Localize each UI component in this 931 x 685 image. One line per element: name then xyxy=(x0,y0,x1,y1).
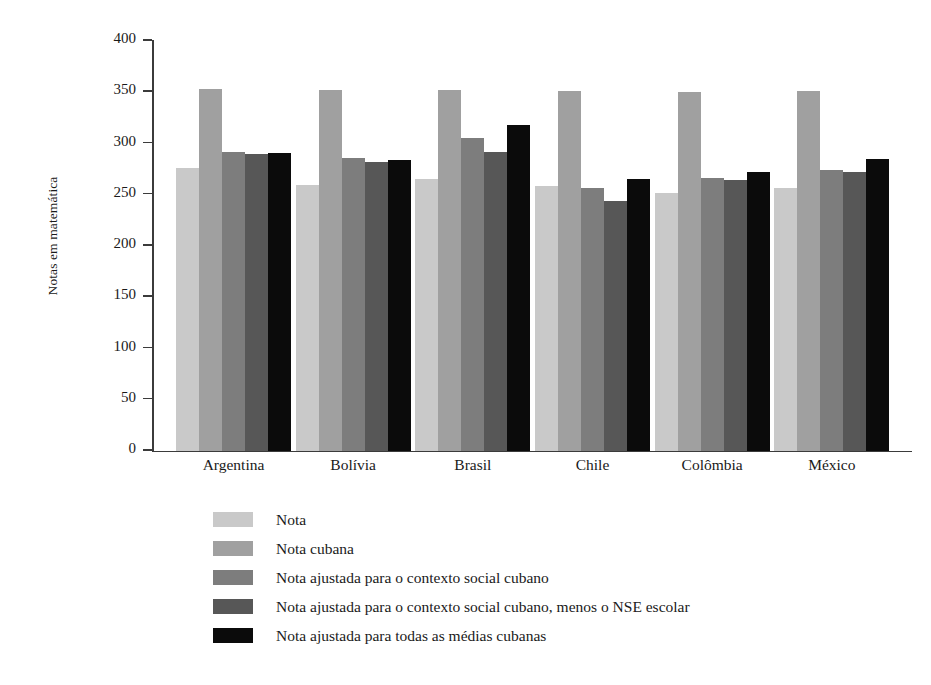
bar xyxy=(484,152,507,450)
y-axis-tick: 350 xyxy=(143,90,152,92)
y-axis-tick-label: 250 xyxy=(114,183,137,202)
bar xyxy=(415,179,438,451)
y-axis-tick-label: 150 xyxy=(114,285,137,304)
bar-group: Chile xyxy=(535,41,650,451)
y-axis-tick: 300 xyxy=(143,142,152,144)
legend-item: Nota ajustada para o contexto social cub… xyxy=(213,563,690,592)
legend-label: Nota ajustada para o contexto social cub… xyxy=(276,597,690,616)
y-axis-tick-label: 300 xyxy=(114,132,137,151)
bar xyxy=(461,138,484,451)
y-axis-tick: 50 xyxy=(143,398,152,400)
bar xyxy=(365,162,388,450)
y-axis-tick: 150 xyxy=(143,295,152,297)
bar xyxy=(604,201,627,450)
x-axis-category-label: México xyxy=(774,455,889,475)
legend-item: Nota ajustada para o contexto social cub… xyxy=(213,592,690,621)
bar xyxy=(438,90,461,451)
bar-group: Bolívia xyxy=(296,41,411,451)
legend-swatch-icon xyxy=(213,599,253,614)
bar xyxy=(558,91,581,451)
x-axis-category-label: Argentina xyxy=(176,455,291,475)
bar xyxy=(507,125,530,451)
y-axis-tick: 0 xyxy=(143,449,152,451)
bar xyxy=(319,90,342,451)
bar xyxy=(820,170,843,451)
x-axis-category-label: Colômbia xyxy=(655,455,770,475)
bar xyxy=(774,188,797,450)
y-axis-tick: 250 xyxy=(143,193,152,195)
chart-legend: NotaNota cubanaNota ajustada para o cont… xyxy=(213,505,690,650)
legend-swatch-icon xyxy=(213,628,253,643)
bar-groups: ArgentinaBolíviaBrasilChileColômbiaMéxic… xyxy=(152,40,912,452)
plot-area: 050100150200250300350400 ArgentinaBolívi… xyxy=(152,40,912,452)
bar xyxy=(296,185,319,450)
bar xyxy=(655,193,678,450)
y-axis-tick-label: 100 xyxy=(114,337,137,356)
y-axis-tick-label: 400 xyxy=(114,29,137,48)
bar xyxy=(747,172,770,451)
bar xyxy=(342,158,365,450)
chart-figure: Notas em matemática 05010015020025030035… xyxy=(0,0,931,685)
legend-swatch-icon xyxy=(213,570,253,585)
y-axis-tick-label: 350 xyxy=(114,80,137,99)
bar-group: México xyxy=(774,41,889,451)
legend-swatch-icon xyxy=(213,541,253,556)
bar xyxy=(724,180,747,451)
y-axis-tick: 400 xyxy=(143,39,152,41)
legend-label: Nota ajustada para o contexto social cub… xyxy=(276,568,549,587)
legend-item: Nota ajustada para todas as médias cuban… xyxy=(213,621,690,650)
legend-label: Nota ajustada para todas as médias cuban… xyxy=(276,626,546,645)
x-axis-category-label: Bolívia xyxy=(296,455,411,475)
y-axis-tick: 200 xyxy=(143,244,152,246)
legend-label: Nota xyxy=(276,510,306,529)
bar xyxy=(535,186,558,450)
y-axis-title: Notas em matemática xyxy=(45,136,61,336)
legend-swatch-icon xyxy=(213,512,253,527)
bar xyxy=(388,160,411,450)
bar xyxy=(701,178,724,451)
bar xyxy=(581,188,604,450)
bar xyxy=(797,91,820,451)
bar-group: Brasil xyxy=(415,41,530,451)
y-axis-tick-label: 200 xyxy=(114,234,137,253)
bar-group: Argentina xyxy=(176,41,291,451)
bar xyxy=(199,89,222,451)
y-axis-tick-label: 50 xyxy=(121,388,136,407)
legend-item: Nota cubana xyxy=(213,534,690,563)
legend-label: Nota cubana xyxy=(276,539,354,558)
legend-item: Nota xyxy=(213,505,690,534)
bar xyxy=(245,154,268,450)
bar-group: Colômbia xyxy=(655,41,770,451)
bar xyxy=(268,153,291,450)
y-axis-tick: 100 xyxy=(143,347,152,349)
y-axis-tick-label: 0 xyxy=(129,439,137,458)
bar xyxy=(627,179,650,451)
bar xyxy=(222,152,245,450)
bar xyxy=(866,159,889,450)
bar xyxy=(678,92,701,451)
x-axis-category-label: Chile xyxy=(535,455,650,475)
bar xyxy=(843,172,866,451)
bar xyxy=(176,168,199,451)
x-axis-category-label: Brasil xyxy=(415,455,530,475)
